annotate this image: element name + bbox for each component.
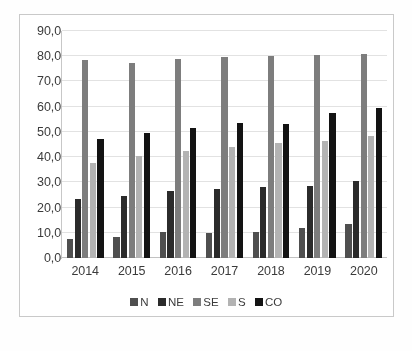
bar-CO-2019 — [329, 113, 335, 258]
y-tick-label: 40,0 — [37, 150, 61, 164]
legend-swatch-N — [130, 298, 138, 306]
legend-swatch-SE — [193, 298, 201, 306]
bar-group-2016 — [155, 31, 201, 258]
bar-group-2017 — [201, 31, 247, 258]
legend-label-N: N — [140, 296, 148, 308]
bar-N-2015 — [113, 237, 119, 258]
y-tick-label: 10,0 — [37, 226, 61, 240]
bar-group-2020 — [341, 31, 387, 258]
x-tick-label-2020: 2020 — [350, 264, 377, 278]
legend-swatch-NE — [158, 298, 166, 306]
legend-item-CO[interactable]: CO — [255, 296, 283, 308]
bar-S-2014 — [90, 163, 96, 258]
y-axis-tick-labels: 0,010,020,030,040,050,060,070,080,090,0 — [19, 31, 61, 258]
y-tick-label: 80,0 — [37, 49, 61, 63]
x-tick-label-2018: 2018 — [257, 264, 284, 278]
bar-NE-2017 — [214, 189, 220, 258]
chart-legend: NNESESCO — [0, 296, 412, 308]
bars-layer — [62, 31, 387, 258]
y-tick-label: 20,0 — [37, 201, 61, 215]
legend-item-NE[interactable]: NE — [158, 296, 184, 308]
bar-SE-2019 — [314, 55, 320, 258]
legend-swatch-CO — [255, 298, 263, 306]
bar-CO-2015 — [144, 133, 150, 258]
bar-N-2019 — [299, 228, 305, 258]
bar-SE-2017 — [221, 57, 227, 258]
bar-CO-2020 — [376, 108, 382, 258]
bar-NE-2020 — [353, 181, 359, 258]
bar-S-2015 — [136, 156, 142, 258]
x-tick-label-2017: 2017 — [211, 264, 238, 278]
bar-SE-2020 — [361, 54, 367, 258]
bar-NE-2015 — [121, 196, 127, 258]
bar-NE-2019 — [307, 186, 313, 258]
x-tick-label-2015: 2015 — [118, 264, 145, 278]
bar-SE-2016 — [175, 59, 181, 258]
bar-S-2020 — [368, 136, 374, 258]
bar-group-2015 — [108, 31, 154, 258]
x-tick-label-2019: 2019 — [304, 264, 331, 278]
x-tick-label-2016: 2016 — [164, 264, 191, 278]
bar-NE-2014 — [75, 199, 81, 258]
bar-group-2019 — [294, 31, 340, 258]
bar-N-2016 — [160, 232, 166, 258]
bar-group-2014 — [62, 31, 108, 258]
y-tick-label: 90,0 — [37, 24, 61, 38]
bar-CO-2018 — [283, 124, 289, 258]
bar-group-2018 — [248, 31, 294, 258]
bar-S-2019 — [322, 141, 328, 258]
legend-item-SE[interactable]: SE — [193, 296, 219, 308]
bar-N-2014 — [67, 239, 73, 258]
legend-item-S[interactable]: S — [228, 296, 246, 308]
legend-swatch-S — [228, 298, 236, 306]
x-tick-label-2014: 2014 — [71, 264, 98, 278]
y-tick-label: 50,0 — [37, 125, 61, 139]
bar-SE-2018 — [268, 56, 274, 258]
y-tick-label: 70,0 — [37, 74, 61, 88]
chart-figure: 0,010,020,030,040,050,060,070,080,090,0 … — [0, 0, 412, 351]
plot-area — [62, 31, 387, 258]
bar-S-2016 — [183, 151, 189, 258]
y-tick-label: 30,0 — [37, 175, 61, 189]
legend-item-N[interactable]: N — [130, 296, 149, 308]
bar-S-2017 — [229, 147, 235, 258]
bar-SE-2015 — [129, 63, 135, 258]
legend-label-NE: NE — [168, 296, 184, 308]
legend-label-CO: CO — [265, 296, 282, 308]
bar-N-2018 — [253, 232, 259, 258]
x-axis-tick-labels: 2014201520162017201820192020 — [62, 264, 387, 284]
bar-CO-2014 — [97, 139, 103, 258]
y-tick-label: 0,0 — [44, 251, 61, 265]
bar-CO-2017 — [237, 123, 243, 258]
bar-N-2017 — [206, 233, 212, 258]
bar-NE-2016 — [167, 191, 173, 258]
bar-NE-2018 — [260, 187, 266, 258]
bar-SE-2014 — [82, 60, 88, 258]
bar-N-2020 — [345, 224, 351, 258]
y-tick-label: 60,0 — [37, 100, 61, 114]
legend-label-S: S — [238, 296, 246, 308]
bar-S-2018 — [275, 143, 281, 258]
legend-label-SE: SE — [203, 296, 218, 308]
bar-CO-2016 — [190, 128, 196, 258]
